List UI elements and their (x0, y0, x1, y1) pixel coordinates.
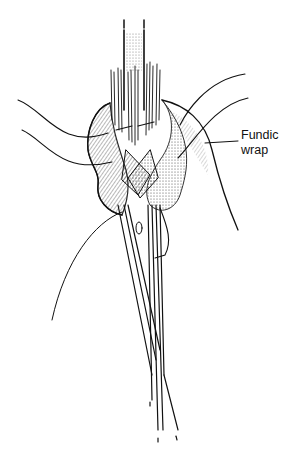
label-line-2: wrap (241, 143, 279, 158)
fundic-wrap-label: Fundic wrap (241, 128, 279, 158)
label-line-1: Fundic (241, 128, 279, 143)
fundic-wrap-drawing (0, 0, 292, 450)
illustration (0, 0, 292, 450)
